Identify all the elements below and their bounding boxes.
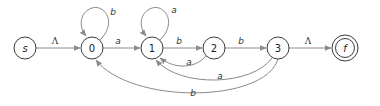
edge-0-0-loop: [81, 7, 108, 40]
node-0: 0: [81, 37, 103, 59]
edge-label-1-1: a: [171, 5, 177, 15]
edge-label-0-0: b: [110, 7, 116, 17]
node-label-s: s: [22, 43, 27, 54]
edge-label-0-1: a: [115, 36, 121, 46]
node-2: 2: [203, 37, 225, 59]
node-label-1: 1: [149, 43, 155, 54]
node-f-final: f: [332, 35, 358, 61]
node-label-0: 0: [89, 43, 95, 54]
node-1: 1: [141, 37, 163, 59]
automaton-diagram: Λ b a a b a b a b Λ s 0 1: [0, 0, 380, 106]
node-3: 3: [267, 37, 289, 59]
edge-label-s-0: Λ: [51, 36, 59, 46]
edge-label-3-1: a: [217, 71, 223, 81]
edge-2-1: [160, 56, 206, 66]
edge-label-2-1: a: [186, 57, 192, 67]
edge-label-3-0: b: [190, 88, 196, 98]
node-label-3: 3: [275, 43, 281, 54]
node-s: s: [14, 37, 36, 59]
node-label-2: 2: [211, 43, 217, 54]
edge-label-3-f: Λ: [304, 36, 312, 46]
edge-label-1-2: b: [176, 36, 182, 46]
edge-3-1: [156, 58, 272, 80]
edge-1-1-loop: [141, 7, 168, 40]
edge-label-2-3: b: [238, 36, 244, 46]
